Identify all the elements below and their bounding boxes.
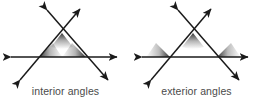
shaded-angle-bottom-right-exterior <box>217 43 241 57</box>
caption-exterior-angles: exterior angles <box>131 86 262 97</box>
geometry-figure: interior angles exterior angles <box>0 0 262 103</box>
panel-exterior-angles <box>142 9 248 80</box>
exterior-angle-shading <box>146 33 241 57</box>
panel-interior-angles <box>11 9 117 80</box>
shaded-angle-bottom-left-exterior <box>146 43 170 57</box>
interior-angle-shading <box>39 33 86 57</box>
caption-interior-angles: interior angles <box>0 86 131 97</box>
